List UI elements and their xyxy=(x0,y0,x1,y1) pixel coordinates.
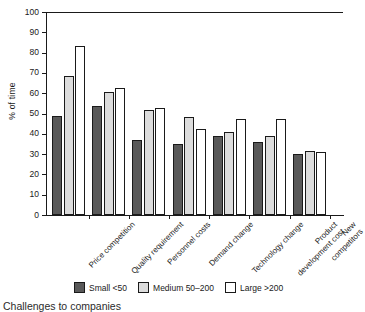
bar xyxy=(305,151,315,215)
x-axis-category-label: Demand change xyxy=(207,220,255,268)
bar xyxy=(64,76,74,215)
bar xyxy=(104,92,114,215)
chart-legend: Small <50Medium 50–200Large >200 xyxy=(74,282,283,293)
x-axis-tick-mark xyxy=(209,215,210,219)
y-axis-tick-label: 40 xyxy=(5,129,39,138)
legend-item: Large >200 xyxy=(225,282,283,293)
y-axis-tick-label: 50 xyxy=(5,109,39,118)
x-axis-tick-mark xyxy=(249,215,250,219)
y-axis-tick-label: 20 xyxy=(5,170,39,179)
bar-group xyxy=(173,12,206,215)
bar xyxy=(75,46,85,216)
bar xyxy=(144,110,154,215)
bar-group xyxy=(52,12,85,215)
x-axis-tick-mark xyxy=(330,215,331,219)
bar xyxy=(155,108,165,215)
y-axis-tick-label: 80 xyxy=(5,48,39,57)
bar xyxy=(184,117,194,215)
y-axis-tick-labels: 0102030405060708090100 xyxy=(0,0,39,311)
bar-group xyxy=(92,12,125,215)
y-axis-tick-label: 90 xyxy=(5,28,39,37)
bar xyxy=(115,88,125,215)
x-axis-tick-mark xyxy=(290,215,291,219)
x-axis-line xyxy=(46,215,344,216)
bar xyxy=(224,132,234,215)
bar-group xyxy=(253,12,286,215)
legend-label: Large >200 xyxy=(240,283,283,293)
bar xyxy=(173,144,183,215)
bar-group xyxy=(293,12,326,215)
plot-area xyxy=(46,12,343,215)
legend-swatch-icon xyxy=(74,282,85,293)
legend-swatch-icon xyxy=(225,282,236,293)
bar xyxy=(265,136,275,215)
legend-label: Medium 50–200 xyxy=(153,283,214,293)
bar xyxy=(236,119,246,215)
x-axis-category-label: Price competition xyxy=(87,220,137,270)
bar xyxy=(92,106,102,215)
legend-item: Medium 50–200 xyxy=(138,282,214,293)
y-axis-tick-label: 60 xyxy=(5,89,39,98)
legend-swatch-icon xyxy=(138,282,149,293)
bar-group xyxy=(132,12,165,215)
x-axis-tick-mark xyxy=(129,215,130,219)
bar xyxy=(253,142,263,215)
bar xyxy=(132,140,142,215)
bar xyxy=(276,119,286,215)
legend-label: Small <50 xyxy=(89,283,127,293)
figure-caption: Challenges to companies xyxy=(3,300,121,312)
bar xyxy=(293,154,303,215)
bar xyxy=(316,152,326,215)
y-axis-tick-label: 100 xyxy=(5,8,39,17)
bar xyxy=(213,136,223,215)
y-axis-tick-label: 30 xyxy=(5,150,39,159)
x-axis-tick-mark xyxy=(89,215,90,219)
y-axis-tick-label: 70 xyxy=(5,68,39,77)
bar xyxy=(52,116,62,215)
bar xyxy=(196,129,206,215)
y-axis-tick-label: 0 xyxy=(5,211,39,220)
bar-group xyxy=(213,12,246,215)
y-axis-tick-label: 10 xyxy=(5,190,39,199)
x-axis-tick-mark xyxy=(169,215,170,219)
legend-item: Small <50 xyxy=(74,282,127,293)
